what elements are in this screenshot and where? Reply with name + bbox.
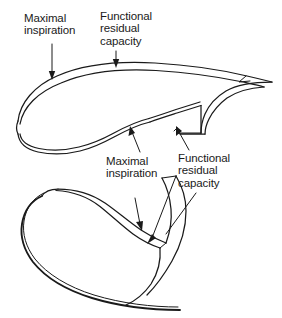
upper-view-leaders <box>49 44 189 152</box>
upper-right-lobe-outer <box>201 82 272 133</box>
upper-middle-leaflet-lower <box>149 102 200 119</box>
upper-left-tip <box>17 121 19 134</box>
leader-lower-view-frc <box>166 193 196 234</box>
lower-outer-border <box>21 196 180 310</box>
lower-view-outlines <box>21 176 186 310</box>
upper-inner-superior-curve <box>20 70 264 124</box>
label-upper-maximal-inspiration: Maximal inspiration <box>24 12 75 37</box>
label-lower-functional-residual-capacity: Functional residual capacity <box>178 152 230 189</box>
label-upper-functional-residual-capacity: Functional residual capacity <box>100 10 152 47</box>
figure-container: Maximal inspiration Functional residual … <box>0 0 282 318</box>
upper-outer-superior-curve <box>18 62 272 121</box>
upper-right-lobe-inner <box>205 87 264 134</box>
leader-lower-view-frc-2 <box>152 176 176 238</box>
leader-lower-frc-upper <box>179 132 189 150</box>
lower-right-shoulder-step <box>162 176 176 178</box>
lower-superior-inner-curve <box>56 191 160 249</box>
lower-middle-crease <box>126 248 160 305</box>
upper-view-outlines <box>17 62 273 153</box>
leader-lower-maximal-inspiration-upper <box>132 132 140 152</box>
arrowhead-lower-view-frc <box>147 234 156 244</box>
label-lower-maximal-inspiration: Maximal inspiration <box>106 155 157 180</box>
lower-inner-border <box>23 193 178 307</box>
upper-middle-leaflet-upper <box>150 106 201 123</box>
arrowhead-upper-maximal-inspiration <box>49 71 55 80</box>
lower-shoulder-notch <box>160 243 166 248</box>
leader-lower-view-maximal-inspiration <box>135 198 140 224</box>
